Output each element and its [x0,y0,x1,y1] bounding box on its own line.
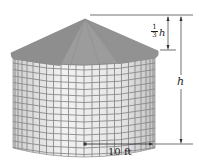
cone-height-var-label: h [159,27,165,38]
radius-label: 10 ft [108,146,132,157]
center-point [84,143,87,146]
silo-wall [13,50,155,166]
silo-diagram [0,0,199,166]
cone-height-fraction: 1 3 [151,24,158,39]
fraction-denominator: 3 [151,32,158,39]
total-height-label: h [177,75,184,88]
silo-roof [11,19,158,67]
